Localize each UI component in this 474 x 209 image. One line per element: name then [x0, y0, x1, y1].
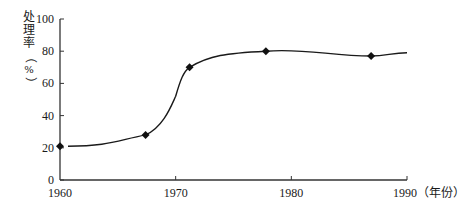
- x-tick-label: 1980: [279, 186, 303, 200]
- y-tick-label: 60: [42, 76, 54, 90]
- y-tick-label: 100: [36, 12, 54, 26]
- y-tick-label: 0: [48, 173, 54, 187]
- x-tick-label: 1970: [164, 186, 188, 200]
- line-chart: 0204060801001960197019801990（年份）: [0, 0, 474, 209]
- diamond-marker: [367, 52, 375, 60]
- x-tick-label: 1990（年份）: [393, 186, 465, 200]
- x-tick-label: 1960: [48, 186, 72, 200]
- axes: [60, 19, 407, 180]
- data-curve: [68, 51, 407, 147]
- diamond-marker: [56, 142, 64, 150]
- diamond-marker: [262, 47, 270, 55]
- diamond-marker: [142, 131, 150, 139]
- data-markers: [56, 47, 375, 150]
- y-tick-label: 40: [42, 109, 54, 123]
- y-tick-label: 20: [42, 141, 54, 155]
- axis-ticks: 0204060801001960197019801990（年份）: [36, 12, 465, 200]
- y-tick-label: 80: [42, 44, 54, 58]
